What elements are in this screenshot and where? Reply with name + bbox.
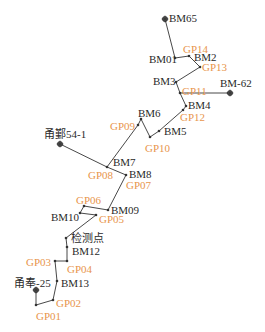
- bm-label: 检测点: [71, 233, 104, 244]
- benchmark-marker-icon: [57, 141, 64, 148]
- bm-label: BM-62: [220, 78, 252, 89]
- station-dot: [179, 92, 182, 95]
- gp-label: GP04: [67, 264, 92, 275]
- station-dot: [56, 280, 59, 283]
- station-dot: [185, 105, 188, 108]
- bm-label: 甬奉-25: [14, 278, 51, 289]
- gp-label: GP06: [76, 195, 101, 206]
- station-dot: [35, 304, 38, 307]
- bm-label: BM01: [149, 54, 177, 65]
- bm-label: BM65: [169, 13, 197, 24]
- station-dot: [158, 130, 161, 133]
- gp-label: GP03: [26, 257, 51, 268]
- station-dot: [66, 260, 69, 263]
- station-dot: [66, 246, 69, 249]
- benchmark-marker-icon: [227, 90, 234, 97]
- bm-label: BM5: [164, 126, 187, 137]
- station-dot: [149, 136, 152, 139]
- station-dot: [65, 237, 68, 240]
- benchmark-marker-icon: [162, 16, 169, 23]
- station-dot: [107, 209, 110, 212]
- gp-label: GP12: [180, 112, 205, 123]
- station-dot: [199, 66, 202, 69]
- gp-label: GP02: [56, 298, 81, 309]
- gp-label: GP07: [126, 180, 151, 191]
- gp-label: GP01: [36, 311, 61, 322]
- station-dot: [137, 124, 140, 127]
- station-dot: [106, 166, 109, 169]
- bm-label: BM6: [138, 108, 161, 119]
- gp-label: GP13: [202, 62, 227, 73]
- gp-label: GP09: [110, 121, 135, 132]
- branch-line-1: [60, 144, 107, 167]
- survey-route-diagram: BM65GP14BM01BM2GP13BM3GP11BM-62BM4GP12BM…: [0, 0, 265, 332]
- gp-label: GP08: [88, 170, 113, 181]
- bm-label: 甬鄞54-1: [44, 129, 86, 140]
- bm-label: BM10: [51, 212, 79, 223]
- gp-label: GP05: [99, 214, 124, 225]
- station-dot: [95, 214, 98, 217]
- bm-label: BM4: [188, 100, 211, 111]
- gp-label: GP11: [182, 86, 207, 97]
- station-dot: [54, 260, 57, 263]
- station-dot: [52, 299, 55, 302]
- station-dot: [125, 174, 128, 177]
- bm-label: BM12: [72, 246, 100, 257]
- bm-label: BM13: [61, 278, 89, 289]
- station-dot: [188, 55, 191, 58]
- bm-label: BM3: [153, 76, 176, 87]
- gp-label: GP10: [145, 143, 170, 154]
- bm-label: BM7: [113, 157, 136, 168]
